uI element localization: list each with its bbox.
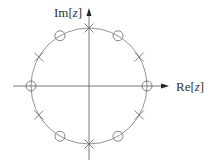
imag-axis-label: Im[z] bbox=[54, 6, 82, 19]
real-label-suffix: ] bbox=[200, 79, 204, 94]
axes bbox=[13, 8, 169, 160]
real-label-prefix: Re[ bbox=[176, 79, 195, 94]
imag-axis-arrow-icon bbox=[87, 8, 92, 16]
imag-label-suffix: ] bbox=[78, 5, 82, 20]
pole-marker-icon bbox=[135, 53, 144, 62]
pole-marker-icon bbox=[34, 53, 43, 62]
pole-marker-icon bbox=[34, 111, 43, 120]
imag-label-prefix: Im[ bbox=[54, 5, 73, 20]
pole-marker-icon bbox=[135, 111, 144, 120]
real-axis-arrow-icon bbox=[161, 84, 169, 89]
real-axis-label: Re[z] bbox=[176, 80, 204, 93]
